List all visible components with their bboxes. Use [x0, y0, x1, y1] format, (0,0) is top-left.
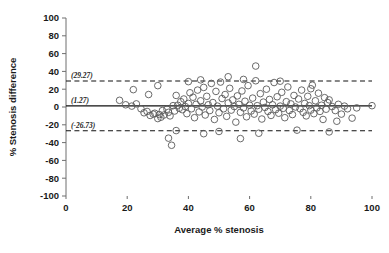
plot-area: -100-80-60-40-20020406080100020406080100… — [0, 0, 389, 253]
x-tick-label: 20 — [122, 202, 133, 213]
data-point — [225, 73, 232, 80]
data-point — [240, 76, 247, 83]
data-point — [145, 91, 152, 98]
y-axis-title: % Stenosis difference — [7, 58, 18, 157]
data-point — [122, 101, 129, 108]
data-point — [193, 101, 200, 108]
data-point — [223, 113, 230, 120]
data-point — [185, 78, 192, 85]
y-tick-label: 80 — [48, 30, 59, 41]
data-point — [242, 98, 249, 105]
data-point — [194, 87, 201, 94]
y-tick-label: 0 — [54, 101, 59, 112]
x-tick-label: 0 — [63, 202, 68, 213]
data-point — [173, 92, 180, 99]
x-tick-label: 40 — [183, 202, 194, 213]
data-point — [285, 84, 292, 91]
data-point — [216, 128, 223, 135]
y-tick-label: -80 — [45, 173, 59, 184]
x-axis-title: Average % stenosis — [174, 224, 263, 235]
data-point — [225, 100, 232, 107]
data-point — [168, 142, 175, 149]
data-point — [252, 63, 259, 70]
data-point — [263, 86, 270, 93]
upper-limit-of-agreement-label: (29.27) — [71, 71, 93, 80]
data-point — [217, 79, 224, 86]
data-point — [269, 101, 276, 108]
y-tick-label: -60 — [45, 155, 59, 166]
data-point — [233, 119, 240, 126]
data-point — [196, 109, 203, 116]
data-point — [191, 114, 198, 121]
data-point — [278, 89, 285, 96]
data-point — [334, 118, 341, 125]
data-point — [130, 86, 137, 93]
data-point — [323, 106, 330, 113]
bland-altman-chart: -100-80-60-40-20020406080100020406080100… — [0, 0, 389, 253]
data-point — [243, 113, 250, 120]
data-point — [220, 105, 227, 112]
data-point — [335, 101, 342, 108]
data-point — [165, 135, 172, 142]
y-tick-label: 20 — [48, 84, 59, 95]
x-tick-label: 60 — [244, 202, 255, 213]
y-tick-label: -40 — [45, 137, 59, 148]
data-point — [349, 115, 356, 122]
data-point — [291, 92, 298, 99]
y-tick-label: 60 — [48, 48, 59, 59]
data-point — [207, 107, 214, 114]
data-point — [295, 96, 302, 103]
data-point — [304, 93, 311, 100]
lower-limit-of-agreement-label: (-26.73) — [71, 121, 96, 130]
data-point — [326, 129, 333, 136]
y-tick-label: -20 — [45, 119, 59, 130]
data-point — [338, 111, 345, 118]
data-point — [294, 127, 301, 134]
mean-difference-label: (1.27) — [71, 96, 90, 105]
data-point — [216, 109, 223, 116]
data-point — [203, 93, 210, 100]
data-point — [245, 82, 252, 89]
data-point — [237, 135, 244, 142]
x-tick-label: 100 — [364, 202, 380, 213]
data-point — [320, 116, 327, 123]
data-point — [257, 90, 264, 97]
axes: -100-80-60-40-20020406080100020406080100 — [40, 12, 380, 213]
data-point — [211, 116, 218, 123]
y-tick-label: -100 — [40, 190, 59, 201]
data-point — [197, 97, 204, 104]
data-point — [281, 114, 288, 121]
data-point — [226, 85, 233, 92]
data-point — [116, 97, 123, 104]
data-point — [255, 130, 262, 137]
data-point — [155, 82, 162, 89]
data-point — [312, 97, 319, 104]
data-point — [197, 77, 204, 84]
data-point — [298, 87, 305, 94]
y-tick-label: 100 — [43, 12, 59, 23]
x-tick-label: 80 — [306, 202, 317, 213]
data-point — [199, 104, 206, 111]
data-point — [200, 84, 207, 91]
data-point — [271, 79, 278, 86]
data-point — [259, 116, 266, 123]
data-point — [239, 88, 246, 95]
data-point — [249, 95, 256, 102]
y-tick-label: 40 — [48, 66, 59, 77]
data-point — [229, 97, 236, 104]
data-point — [200, 130, 207, 137]
data-point — [213, 88, 220, 95]
data-point — [315, 90, 322, 97]
